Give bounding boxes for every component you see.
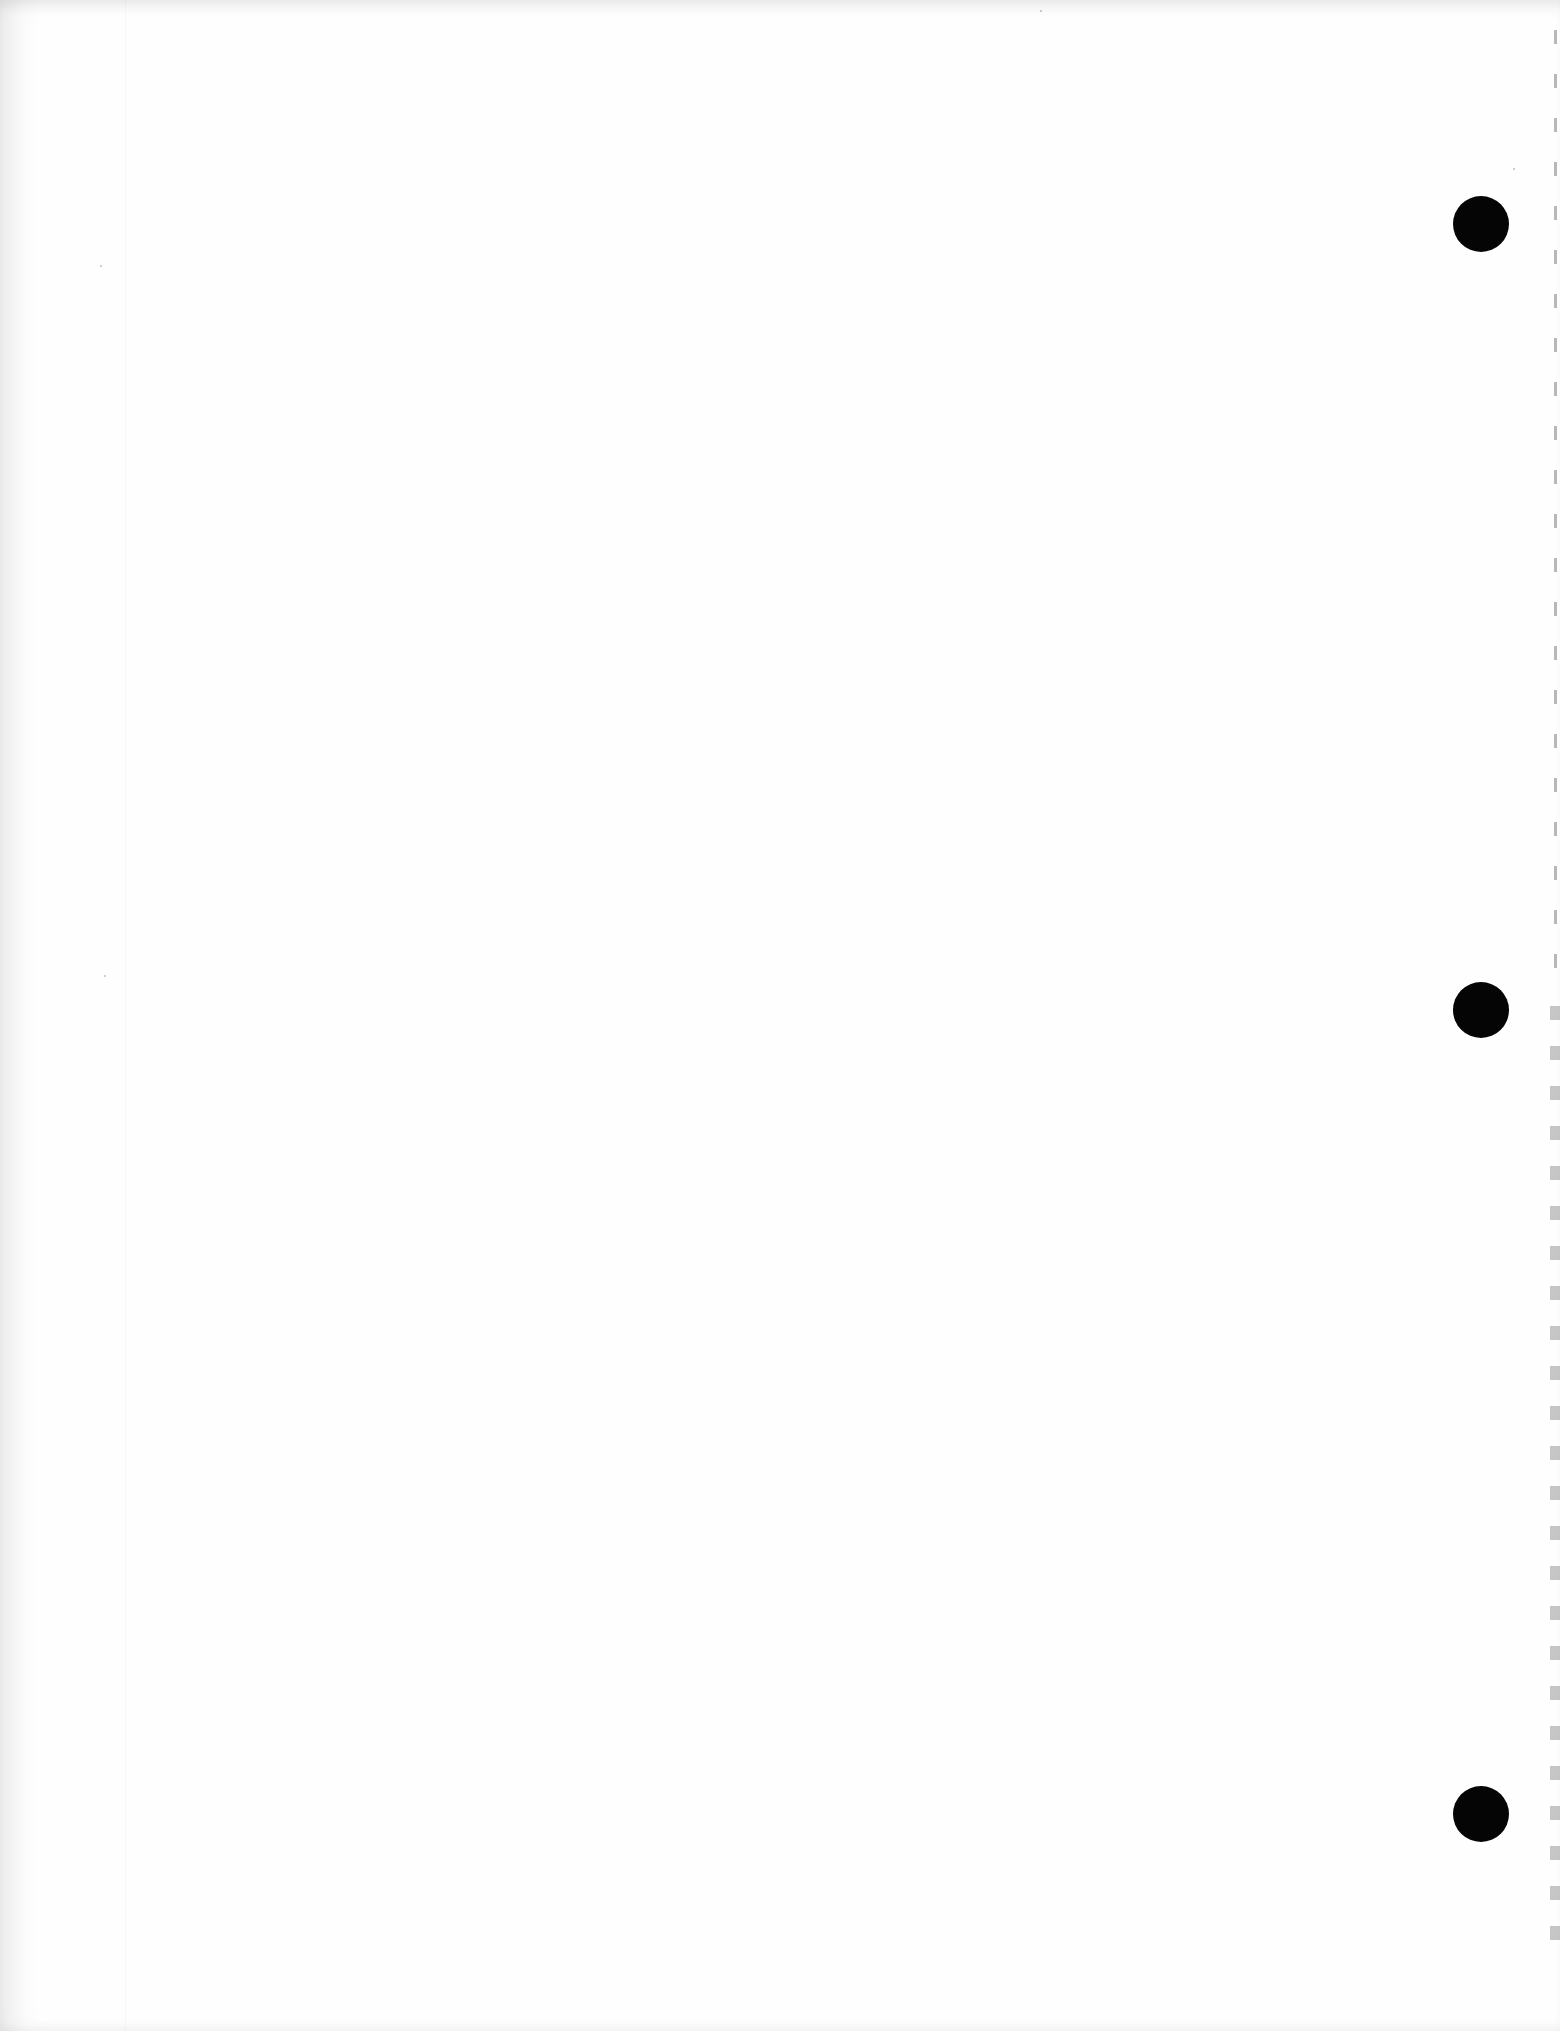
faint-margin-line	[125, 0, 126, 2031]
scan-speck	[104, 975, 106, 977]
scan-speck	[1513, 168, 1515, 170]
perforated-edge-upper	[1546, 0, 1560, 980]
perforated-edge-lower	[1550, 980, 1560, 1940]
scan-speck	[100, 265, 102, 267]
blank-paper-page	[0, 0, 1560, 2031]
punch-hole-middle	[1453, 982, 1509, 1038]
punch-hole-bottom	[1453, 1786, 1509, 1842]
scan-speck	[1040, 10, 1042, 12]
punch-hole-top	[1453, 196, 1509, 252]
